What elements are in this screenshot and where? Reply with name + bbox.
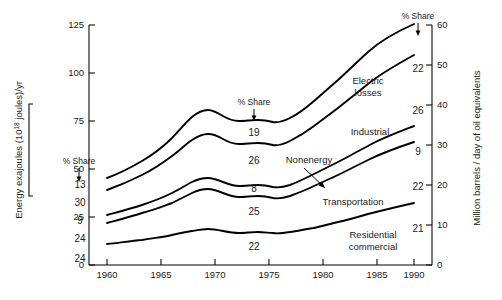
svg-text:Energy exajoules (1018 joules: Energy exajoules (1018 joules)/yr — [13, 81, 25, 219]
left-axis-title-prefix: Energy exajoules (10 — [13, 130, 24, 219]
share-header-1960: % Share — [63, 156, 96, 166]
y2-tick-10: 10 — [437, 219, 448, 230]
left-axis — [89, 25, 95, 265]
label-electric-losses-line1: Electric — [352, 75, 383, 86]
y2-tick-60: 60 — [437, 19, 448, 30]
right-axis-tick-labels: 60 50 40 30 20 10 0 — [437, 19, 448, 270]
y-tick-125: 125 — [68, 19, 84, 30]
y2-tick-30: 30 — [437, 139, 448, 150]
x-tick-1965: 1965 — [150, 269, 171, 280]
share-1960-transportation: 24 — [74, 233, 86, 244]
share-1990-electric-losses: 22 — [412, 63, 424, 74]
y2-tick-50: 50 — [437, 59, 448, 70]
label-industrial: Industrial — [351, 126, 390, 137]
right-axis-title: Million barrels / day of oil equivalents — [471, 70, 482, 225]
share-1960-electric-losses: 13 — [74, 179, 86, 190]
share-1975-residential-commercial: 22 — [248, 241, 260, 252]
share-1975-transportation: 25 — [248, 206, 260, 217]
x-tick-1975: 1975 — [258, 269, 279, 280]
share-1975-industrial: 26 — [248, 155, 260, 166]
share-1990-transportation: 22 — [412, 181, 424, 192]
x-tick-1985: 1985 — [366, 269, 387, 280]
share-1990-industrial: 26 — [412, 105, 424, 116]
y2-tick-0: 0 — [437, 259, 442, 270]
x-tick-1960: 1960 — [96, 269, 117, 280]
curve-labels: Electric losses Industrial Nonenergy Tra… — [286, 75, 398, 252]
share-1975-nonenergy: 8 — [251, 183, 257, 194]
share-header-1990: % Share — [402, 11, 435, 21]
x-tick-1970: 1970 — [204, 269, 225, 280]
label-nonenergy: Nonenergy — [286, 154, 333, 165]
label-electric-losses-line2: losses — [355, 87, 382, 98]
y-tick-75: 75 — [73, 115, 84, 126]
y-tick-100: 100 — [68, 67, 84, 78]
share-1960-residential-commercial: 24 — [74, 253, 86, 264]
left-axis-title: Energy exajoules (1018 joules)/yr — [13, 81, 34, 219]
share-1960-nonenergy: 9 — [77, 215, 83, 226]
bottom-axis — [89, 259, 432, 265]
label-residential-commercial-line1: Residential — [350, 229, 397, 240]
share-1990-nonenergy: 9 — [415, 146, 421, 157]
right-axis — [426, 25, 432, 265]
y2-tick-20: 20 — [437, 179, 448, 190]
share-column-1990: % Share 22 26 9 22 21 — [402, 11, 435, 234]
energy-consumption-chart: 125 100 75 50 25 0 60 50 40 30 20 10 0 1 — [0, 0, 502, 300]
label-residential-commercial-line2: commercial — [349, 241, 398, 252]
share-1960-industrial: 30 — [74, 197, 86, 208]
x-axis-tick-labels: 1960 1965 1970 1975 1980 1985 1990 — [96, 269, 424, 280]
share-1975-electric-losses: 19 — [248, 127, 260, 138]
x-tick-1990: 1990 — [403, 269, 424, 280]
label-transportation: Transportation — [323, 196, 384, 207]
chart-svg: 125 100 75 50 25 0 60 50 40 30 20 10 0 1 — [0, 0, 502, 300]
x-tick-1980: 1980 — [312, 269, 333, 280]
share-1990-residential-commercial: 21 — [412, 223, 424, 234]
y2-tick-40: 40 — [437, 99, 448, 110]
share-header-1975: % Share — [238, 97, 271, 107]
left-axis-title-suffix: joules)/yr — [13, 81, 24, 122]
share-column-1960: % Share 13 30 9 24 24 — [63, 156, 96, 264]
